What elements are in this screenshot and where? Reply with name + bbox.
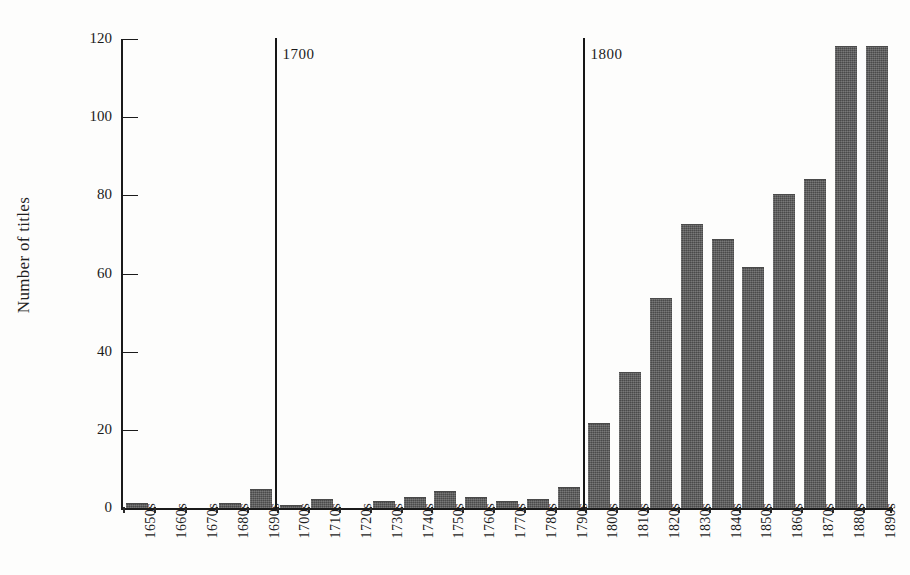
- era-divider-1700: [275, 38, 277, 508]
- y-tick-label: 100: [64, 109, 112, 124]
- y-tick-label: 40: [64, 344, 112, 359]
- x-label-1660s: 1660s: [174, 503, 190, 573]
- x-label-1880s: 1880s: [852, 503, 868, 573]
- x-axis-labels: 1650s1660s1670s1680s1690s1700s1710s1720s…: [122, 513, 892, 575]
- plot-area: 020406080100120 17001800: [122, 39, 892, 508]
- x-label-1760s: 1760s: [482, 503, 498, 573]
- x-label-1810s: 1810s: [636, 503, 652, 573]
- x-label-1860s: 1860s: [790, 503, 806, 573]
- x-label-1800s: 1800s: [605, 503, 621, 573]
- bar-1820s: [650, 298, 672, 508]
- x-label-1770s: 1770s: [513, 503, 529, 573]
- x-label-1820s: 1820s: [667, 503, 683, 573]
- bar-1870s: [804, 179, 826, 508]
- bar-1810s: [619, 372, 641, 508]
- chart-page: Number of titles 020406080100120 1700180…: [0, 0, 910, 575]
- x-label-1790s: 1790s: [575, 503, 591, 573]
- x-label-1650s: 1650s: [143, 503, 159, 573]
- y-axis-title: Number of titles: [14, 145, 34, 365]
- x-label-1710s: 1710s: [328, 503, 344, 573]
- y-tick-label: 80: [64, 187, 112, 202]
- y-tick-label: 20: [64, 422, 112, 437]
- y-tick-label: 60: [64, 266, 112, 281]
- x-label-1840s: 1840s: [729, 503, 745, 573]
- era-label-1700: 1700: [282, 46, 314, 63]
- bar-1880s: [835, 46, 857, 508]
- y-tick-mark: [122, 117, 138, 118]
- bar-1840s: [712, 239, 734, 508]
- bar-1860s: [773, 194, 795, 508]
- era-label-1800: 1800: [590, 46, 622, 63]
- bar-1830s: [681, 224, 703, 508]
- y-tick-mark: [122, 352, 138, 353]
- x-label-1690s: 1690s: [267, 503, 283, 573]
- y-tick-mark: [122, 430, 138, 431]
- x-label-1890s: 1890s: [883, 503, 899, 573]
- y-tick-mark: [122, 39, 138, 40]
- bar-1850s: [742, 267, 764, 508]
- era-divider-1800: [583, 38, 585, 508]
- x-label-1720s: 1720s: [359, 503, 375, 573]
- x-label-1740s: 1740s: [421, 503, 437, 573]
- x-label-1870s: 1870s: [821, 503, 837, 573]
- x-label-1780s: 1780s: [544, 503, 560, 573]
- bar-1800s: [588, 423, 610, 508]
- x-label-1850s: 1850s: [759, 503, 775, 573]
- y-tick-mark: [122, 274, 138, 275]
- x-label-1700s: 1700s: [297, 503, 313, 573]
- x-label-1680s: 1680s: [236, 503, 252, 573]
- bar-1890s: [866, 46, 888, 508]
- y-tick-label: 0: [64, 500, 112, 515]
- x-label-1730s: 1730s: [390, 503, 406, 573]
- y-tick-label: 120: [64, 31, 112, 46]
- y-tick-mark: [122, 195, 138, 196]
- x-label-1830s: 1830s: [698, 503, 714, 573]
- x-label-1670s: 1670s: [205, 503, 221, 573]
- x-label-1750s: 1750s: [451, 503, 467, 573]
